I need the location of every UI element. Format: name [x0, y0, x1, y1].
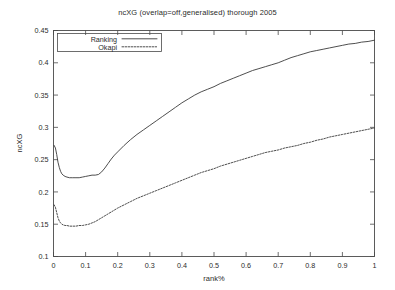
x-tick-label: 0.6: [241, 261, 251, 270]
y-tick-label: 0.15: [35, 220, 49, 229]
x-tick-label: 0.7: [273, 261, 283, 270]
x-tick-label: 0.8: [305, 261, 315, 270]
x-tick-label: 1: [373, 261, 377, 270]
series-line-ranking: [54, 40, 374, 178]
y-axis-title: ncXG: [15, 133, 24, 152]
x-axis-title: rank%: [203, 274, 225, 283]
y-tick-label: 0.3: [39, 123, 49, 132]
chart-legend: Ranking Okapi: [58, 34, 162, 52]
plot-area: 0.10.150.20.250.30.350.40.45 00.10.20.30…: [0, 0, 395, 290]
y-axis-tick-labels: 0.10.150.20.250.30.350.40.45: [35, 26, 49, 261]
chart-figure: ncXG (overlap=off,generalised) thorough …: [0, 0, 395, 290]
x-tick-label: 0.1: [81, 261, 91, 270]
x-tick-label: 0.9: [337, 261, 347, 270]
series-line-okapi: [54, 128, 374, 226]
x-tick-label: 0.5: [209, 261, 219, 270]
x-tick-label: 0: [52, 261, 56, 270]
y-tick-label: 0.45: [35, 26, 49, 35]
y-tick-label: 0.1: [39, 252, 49, 261]
y-tick-label: 0.4: [39, 58, 49, 67]
x-tick-label: 0.3: [145, 261, 155, 270]
y-tick-label: 0.25: [35, 155, 49, 164]
legend-item-okapi-label: Okapi: [98, 43, 117, 52]
axis-ticks: [54, 31, 375, 257]
data-series-group: [54, 40, 374, 226]
x-tick-label: 0.2: [113, 261, 123, 270]
y-tick-label: 0.2: [39, 188, 49, 197]
x-axis-tick-labels: 00.10.20.30.40.50.60.70.80.91: [52, 261, 377, 270]
plot-frame: [54, 31, 375, 257]
x-tick-label: 0.4: [177, 261, 187, 270]
y-tick-label: 0.35: [35, 91, 49, 100]
